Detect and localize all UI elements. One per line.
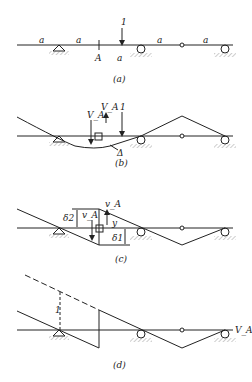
- svg-text:v_A: v_A: [82, 210, 99, 221]
- svg-text:(b): (b): [115, 158, 128, 168]
- panel-a: 1 a a a a a A (a): [17, 17, 236, 84]
- svg-text:(d): (d): [113, 360, 126, 370]
- influence-line-figure: 1 a a a a a A (a) V_A V_A 1 Δ (b): [0, 0, 252, 382]
- roller-support-icon: [137, 45, 145, 53]
- svg-text:a: a: [203, 35, 208, 45]
- deflected-shape: [17, 116, 225, 148]
- svg-text:a: a: [39, 35, 44, 45]
- svg-text:V_A: V_A: [235, 325, 252, 336]
- svg-text:a: a: [157, 35, 162, 45]
- pin-support-icon: [53, 45, 65, 51]
- svg-text:V_A: V_A: [101, 102, 119, 113]
- svg-text:1: 1: [55, 305, 61, 315]
- dashed-reference-line: [25, 275, 99, 310]
- panel-d: 1 V_A (d): [17, 275, 252, 370]
- hinge-icon: [180, 43, 184, 47]
- svg-text:A: A: [94, 53, 102, 63]
- svg-text:a: a: [76, 35, 81, 45]
- influence-line: [17, 310, 225, 348]
- svg-text:1: 1: [121, 17, 127, 27]
- svg-text:y: y: [111, 218, 118, 228]
- svg-text:a: a: [117, 53, 122, 63]
- svg-text:δ1: δ1: [112, 233, 123, 243]
- svg-text:δ2: δ2: [63, 213, 74, 223]
- panel-b: V_A V_A 1 Δ (b): [17, 102, 236, 168]
- svg-text:(c): (c): [115, 254, 128, 264]
- svg-text:(a): (a): [113, 74, 126, 84]
- svg-text:1: 1: [120, 102, 126, 112]
- svg-text:v_A: v_A: [105, 199, 122, 210]
- svg-text:Δ: Δ: [116, 148, 124, 158]
- roller-support-icon: [221, 45, 229, 53]
- panel-c: δ2 v_A v_A y δ1 (c): [17, 199, 236, 264]
